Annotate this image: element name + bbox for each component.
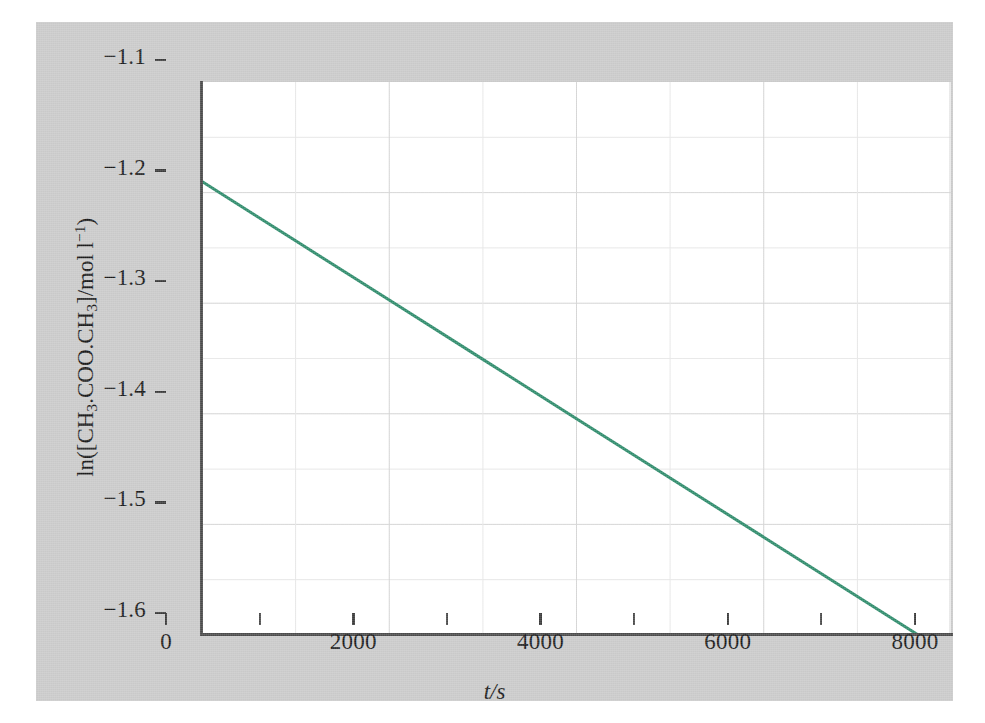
data-series-line [202,82,951,635]
x-tick-mark-minor [259,613,261,625]
y-tick-mark [155,501,166,504]
x-tick-mark [539,613,542,625]
y-axis-title-mid-1: .COO.CH [73,312,98,404]
x-tick-mark [165,613,168,625]
x-tick-mark [914,613,917,625]
plot-canvas [202,82,951,635]
figure-panel: −1.1−1.2−1.3−1.4−1.5−1.6 020004000600080… [36,22,953,701]
y-axis-title-sup-1: −1 [71,225,88,242]
y-tick-mark [155,169,166,172]
y-axis-title: ln([CH3.COO.CH3]/mol l−1) [71,67,102,627]
y-axis-title-suffix: ) [73,218,98,226]
y-axis-line [200,81,203,636]
y-tick-mark [155,59,166,62]
x-tick-label: 4000 [481,629,601,655]
x-tick-mark-minor [820,613,822,625]
x-tick-label: 8000 [855,629,975,655]
x-tick-label: 6000 [668,629,788,655]
y-tick-label: −1.1 [41,44,146,70]
y-tick-mark [155,280,166,283]
figure-page: −1.1−1.2−1.3−1.4−1.5−1.6 020004000600080… [0,0,985,723]
series-polyline [202,182,918,635]
y-axis-title-sub-1: 3 [83,404,100,412]
y-tick-mark [155,391,166,394]
x-tick-mark-minor [633,613,635,625]
y-axis-title-sub-2: 3 [83,304,100,312]
x-tick-label: 2000 [293,629,413,655]
x-axis-title: t/s [36,679,953,705]
y-axis-title-prefix: ln([CH [73,412,98,477]
y-axis-title-mid-2: ]/mol l [73,242,98,304]
x-tick-mark-minor [446,613,448,625]
x-tick-mark [727,613,730,625]
x-tick-label: 0 [106,629,226,655]
x-tick-mark [352,613,355,625]
